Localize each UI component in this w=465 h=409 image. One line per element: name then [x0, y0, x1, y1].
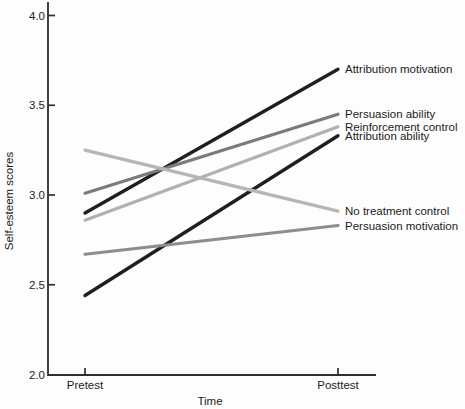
y-axis-title: Self-esteem scores	[3, 152, 15, 251]
chart-canvas: 4.03.53.02.52.0PretestPosttestTimeSelf-e…	[0, 0, 465, 409]
series-label-persuasion-ability: Persuasion ability	[345, 108, 435, 120]
y-tick-label-3.5: 3.5	[29, 99, 45, 111]
series-label-attribution-motivation: Attribution motivation	[345, 63, 452, 75]
x-tick-label-posttest: Posttest	[317, 379, 359, 391]
y-tick-label-3.0: 3.0	[29, 189, 45, 201]
line-chart-figure: 4.03.53.02.52.0PretestPosttestTimeSelf-e…	[0, 0, 465, 409]
series-label-attribution-ability: Attribution ability	[345, 130, 430, 142]
y-tick-label-4.0: 4.0	[29, 10, 45, 22]
y-tick-label-2.0: 2.0	[29, 369, 45, 381]
series-line-persuasion-motivation	[85, 226, 338, 255]
y-tick-label-2.5: 2.5	[29, 279, 45, 291]
series-label-persuasion-motivation: Persuasion motivation	[345, 220, 458, 232]
series-label-no-treatment-control: No treatment control	[345, 205, 449, 217]
x-axis-title: Time	[197, 395, 222, 407]
x-tick-label-pretest: Pretest	[67, 379, 104, 391]
